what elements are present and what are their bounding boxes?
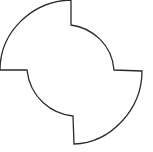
pinwheel-shape bbox=[0, 0, 153, 152]
pinwheel-outline bbox=[0, 0, 142, 144]
diagram-canvas bbox=[0, 0, 153, 152]
